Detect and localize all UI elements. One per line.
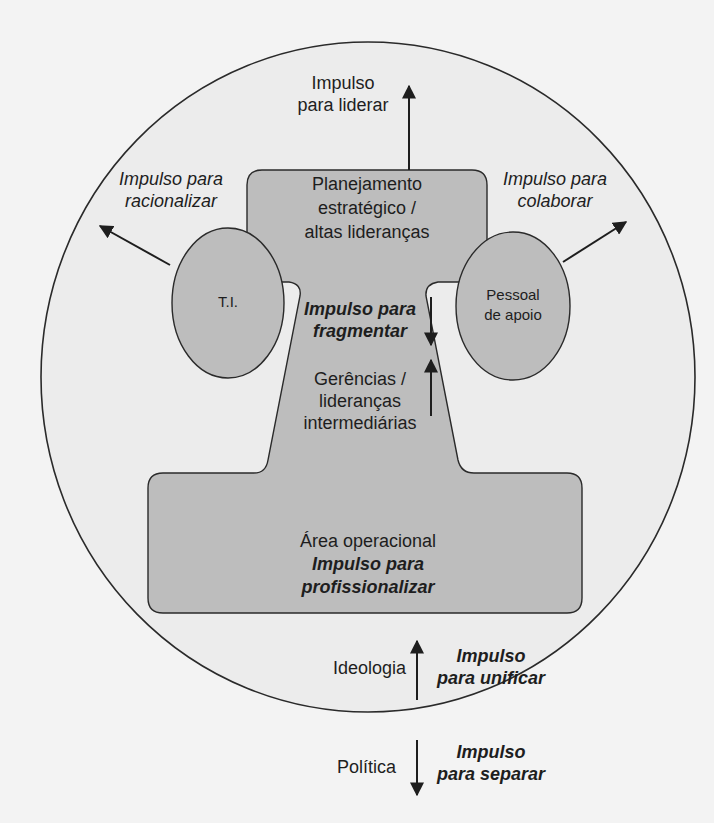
top-box-line-1: Planejamento [247,172,487,196]
unify-force-label: Impulso para unificar [426,645,556,689]
top-box-line-2: estratégico / [247,196,487,220]
lead-force-line-2: para liderar [283,94,403,116]
rationalize-force-label: Impulso para racionalizar [106,168,236,212]
middle-line-line-2: lideranças [290,390,430,412]
support-staff-line-2: de apoio [463,305,563,325]
ideology-label: Ideologia [296,657,406,679]
unify-force-line-2: para unificar [426,667,556,689]
lead-force-line-1: Impulso [283,72,403,94]
fragment-force-line-2: fragmentar [290,320,430,342]
top-box-label: Planejamento estratégico / altas lideran… [247,172,487,244]
unify-force-line-1: Impulso [426,645,556,667]
separate-force-line-2: para separar [426,763,556,785]
professionalize-force-line-1: Impulso para [248,553,488,576]
collaborate-force-line-1: Impulso para [490,168,620,190]
operating-core-label: Área operacional [248,530,488,553]
politics-label: Política [296,756,396,778]
ti-label: T.I. [188,292,268,312]
lead-force-label: Impulso para liderar [283,72,403,116]
middle-line-line-1: Gerências / [290,368,430,390]
support-staff-label: Pessoal de apoio [463,285,563,325]
support-staff-line-1: Pessoal [463,285,563,305]
separate-force-label: Impulso para separar [426,741,556,785]
collaborate-force-label: Impulso para colaborar [490,168,620,212]
rationalize-force-line-2: racionalizar [106,190,236,212]
collaborate-force-line-2: colaborar [490,190,620,212]
professionalize-force-line-2: profissionalizar [248,576,488,599]
fragment-force-label: Impulso para fragmentar [290,298,430,342]
top-box-line-3: altas lideranças [247,220,487,244]
middle-line-line-3: intermediárias [290,412,430,434]
separate-force-line-1: Impulso [426,741,556,763]
middle-line-label: Gerências / lideranças intermediárias [290,368,430,434]
bottom-box-label: Área operacional Impulso para profission… [248,530,488,599]
rationalize-force-line-1: Impulso para [106,168,236,190]
fragment-force-line-1: Impulso para [290,298,430,320]
